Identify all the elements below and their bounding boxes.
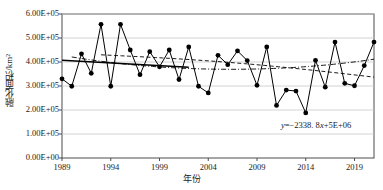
data-point (167, 48, 172, 53)
x-axis-tick-label: 2004 (200, 162, 217, 172)
data-point (60, 76, 65, 81)
data-point (108, 84, 113, 89)
data-point (313, 58, 318, 63)
data-point (138, 72, 143, 77)
data-point (99, 22, 104, 27)
x-axis-title: 年份 (0, 172, 383, 185)
data-point (284, 88, 289, 93)
data-point (245, 58, 250, 63)
data-point (79, 51, 84, 56)
data-point (89, 71, 94, 76)
data-point (186, 44, 191, 49)
data-point (303, 110, 308, 115)
data-point (225, 62, 230, 67)
data-point (147, 49, 152, 54)
data-point (177, 77, 182, 82)
data-point (323, 85, 328, 90)
data-point (362, 63, 367, 68)
x-axis-tick-label: 2014 (297, 162, 314, 172)
data-point (206, 91, 211, 96)
x-axis-title-text: 年份 (183, 174, 201, 184)
data-point (216, 53, 221, 58)
x-axis-tick-label: 2019 (346, 162, 363, 172)
data-point (372, 40, 377, 45)
trend-equation-annotation: y=−2338. 8x+5E+06 (281, 120, 351, 130)
data-point (342, 81, 347, 86)
chart-container: 融化面积/km² 0.00E+001.00E+052.00E+053.00E+0… (0, 0, 383, 190)
data-point (157, 64, 162, 69)
equation-tail: +5E+06 (324, 120, 352, 130)
x-axis-tick-label: 1999 (151, 162, 168, 172)
data-point (235, 49, 240, 54)
data-point (69, 84, 74, 89)
data-point (333, 40, 338, 45)
x-axis-tick-label: 1994 (102, 162, 119, 172)
data-point (264, 44, 269, 49)
data-point (118, 22, 123, 27)
data-point (294, 89, 299, 94)
x-axis-tick-label: 1989 (54, 162, 71, 172)
data-point (196, 84, 201, 89)
data-point (128, 48, 133, 53)
equation-body: =−2338. 8 (285, 120, 320, 130)
data-point (274, 103, 279, 108)
data-point (352, 83, 357, 88)
data-point (255, 83, 260, 88)
x-axis-tick-label: 2009 (249, 162, 266, 172)
